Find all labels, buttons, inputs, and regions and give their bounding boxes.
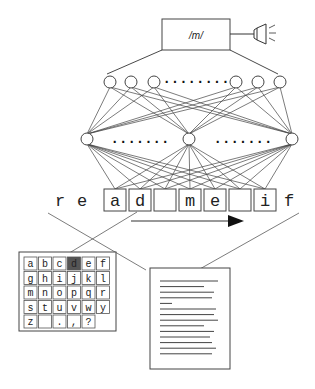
output-node: [274, 76, 286, 88]
grid-key-letter: .: [56, 317, 62, 328]
grid-key-letter: s: [27, 303, 33, 314]
output-unit: /m/: [162, 19, 230, 50]
input-letter: m: [185, 192, 195, 211]
grid-key-letter: y: [100, 303, 106, 314]
grid-key-letter: ,: [71, 317, 77, 328]
right-arrow-icon: [131, 215, 244, 227]
input-slot: [154, 189, 176, 211]
svg-text:.......: .......: [111, 131, 170, 147]
grid-key-letter: p: [71, 288, 77, 299]
hidden-layer-ellipsis-right: .......: [214, 131, 273, 147]
grid-key-letter: l: [100, 274, 106, 285]
grid-key-letter: v: [71, 303, 77, 314]
grid-key-letter: z: [27, 317, 33, 328]
grid-key: [39, 315, 52, 328]
grid-key-letter: a: [27, 259, 33, 270]
document-icon: [150, 268, 230, 369]
grid-key-letter: j: [71, 274, 77, 285]
hidden-node: [81, 133, 93, 145]
grid-key-letter: n: [42, 288, 48, 299]
grid-key-letter: k: [85, 274, 91, 285]
grid-key-letter: m: [27, 288, 33, 299]
grid-key-letter: e: [85, 259, 91, 270]
grid-key-letter: h: [42, 274, 48, 285]
context-letter: e: [77, 192, 87, 211]
grid-key-letter: w: [85, 303, 91, 314]
svg-text:........: ........: [162, 71, 229, 87]
grid-key-letter: o: [56, 288, 62, 299]
output-node: [148, 76, 160, 88]
output-phoneme-label: /m/: [188, 30, 204, 41]
grid-key-letter: d: [71, 259, 77, 270]
grid-key-letter: r: [100, 288, 106, 299]
context-letter: f: [284, 192, 294, 211]
output-node: [252, 76, 264, 88]
hidden-node: [286, 133, 298, 145]
grid-key-letter: b: [42, 259, 48, 270]
grid-key-letter: f: [100, 259, 106, 270]
output-node: [125, 76, 137, 88]
grid-key-letter: c: [56, 259, 62, 270]
grid-key-letter: g: [27, 274, 33, 285]
grid-key-letter: i: [56, 274, 62, 285]
input-window: readmeif: [55, 189, 294, 211]
letter-grid: abcdefghijklmnopqrstuvwyz.,?: [19, 252, 116, 331]
speaker-icon: [230, 24, 276, 44]
grid-key-letter: q: [85, 288, 91, 299]
hidden-node: [183, 133, 195, 145]
input-letter: i: [260, 192, 270, 211]
output-node: [230, 76, 242, 88]
nettalk-diagram: /m/ ........ ....... ....... readmeif ab…: [0, 0, 315, 389]
input-letter: d: [135, 192, 145, 211]
hidden-layer-ellipsis-left: .......: [111, 131, 170, 147]
output-node: [104, 76, 116, 88]
output-layer-ellipsis: ........: [162, 71, 229, 87]
input-slot: [229, 189, 251, 211]
grid-key-letter: ?: [85, 317, 91, 328]
input-letter: e: [210, 192, 220, 211]
grid-key-letter: u: [56, 303, 62, 314]
grid-key-letter: t: [42, 303, 48, 314]
context-letter: r: [55, 192, 65, 211]
input-letter: a: [110, 192, 120, 211]
svg-text:.......: .......: [214, 131, 273, 147]
